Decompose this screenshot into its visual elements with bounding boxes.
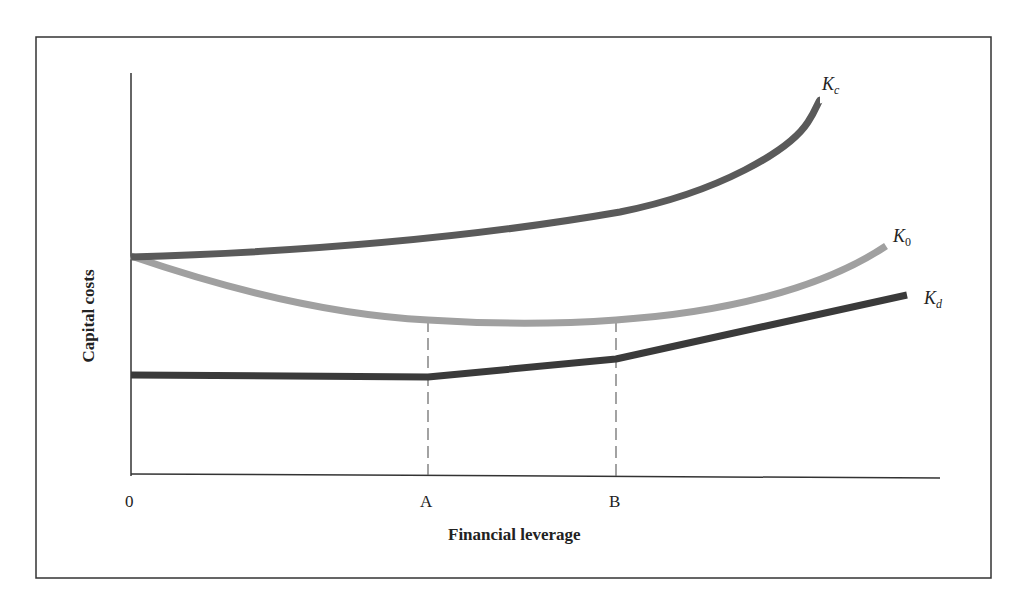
series-kd-line — [131, 295, 907, 377]
x-tick-a: A — [420, 492, 432, 512]
series-label-k0-main: K — [893, 226, 905, 246]
series-label-kc-sub: c — [834, 83, 839, 97]
series-label-kd-main: K — [924, 288, 936, 308]
series-label-k0: K0 — [893, 226, 911, 250]
series-kc-line — [131, 100, 820, 257]
series-k0-line — [131, 246, 886, 323]
series-label-kd-sub: d — [936, 297, 942, 311]
x-axis-title: Financial leverage — [448, 525, 581, 545]
series-label-kc-main: K — [822, 74, 834, 94]
series-label-k0-sub: 0 — [905, 235, 911, 249]
x-tick-b: B — [609, 492, 620, 512]
x-axis — [131, 474, 940, 478]
x-tick-0: 0 — [125, 492, 134, 512]
y-axis-title: Capital costs — [79, 261, 99, 371]
chart-figure: 0 A B Financial leverage Capital costs K… — [0, 0, 1024, 602]
chart-canvas — [0, 0, 1024, 602]
series-label-kc: Kc — [822, 74, 839, 98]
series-label-kd: Kd — [924, 288, 942, 312]
